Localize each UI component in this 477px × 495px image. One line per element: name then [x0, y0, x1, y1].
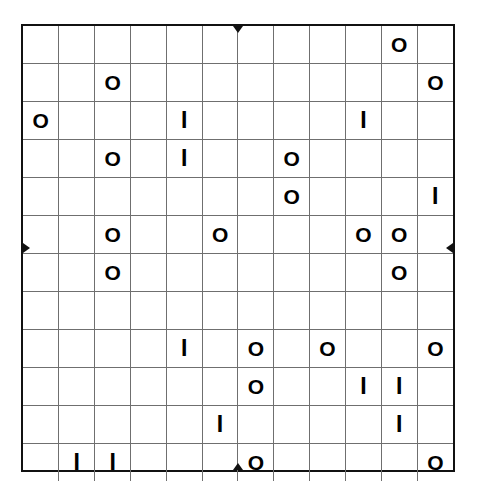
grid-cell-r1-c4[interactable]	[166, 64, 202, 102]
grid-cell-r10-c3[interactable]	[130, 406, 166, 444]
grid-cell-r3-c9[interactable]	[345, 140, 381, 178]
grid-cell-r0-c4[interactable]	[166, 26, 202, 64]
grid-cell-r11-c0[interactable]	[23, 444, 59, 482]
grid-cell-r1-c10[interactable]	[381, 64, 417, 102]
grid-cell-r5-c7[interactable]	[274, 216, 310, 254]
grid-cell-r3-c11[interactable]	[417, 140, 453, 178]
grid-cell-r2-c9[interactable]: I	[345, 102, 381, 140]
grid-cell-r10-c7[interactable]	[274, 406, 310, 444]
grid-cell-r10-c4[interactable]	[166, 406, 202, 444]
grid-cell-r6-c3[interactable]	[130, 254, 166, 292]
grid-cell-r2-c2[interactable]	[95, 102, 131, 140]
grid-cell-r8-c4[interactable]: I	[166, 330, 202, 368]
grid-cell-r5-c8[interactable]	[310, 216, 346, 254]
grid-cell-r11-c2[interactable]: I	[95, 444, 131, 482]
grid-cell-r1-c9[interactable]	[345, 64, 381, 102]
grid-cell-r7-c0[interactable]	[23, 292, 59, 330]
grid-cell-r11-c1[interactable]: I	[59, 444, 95, 482]
grid-cell-r9-c5[interactable]	[202, 368, 238, 406]
grid-cell-r7-c1[interactable]	[59, 292, 95, 330]
grid-cell-r4-c11[interactable]: I	[417, 178, 453, 216]
grid-cell-r8-c3[interactable]	[130, 330, 166, 368]
grid-cell-r5-c2[interactable]: O	[95, 216, 131, 254]
grid-cell-r5-c10[interactable]: O	[381, 216, 417, 254]
grid-cell-r1-c7[interactable]	[274, 64, 310, 102]
grid-cell-r11-c7[interactable]	[274, 444, 310, 482]
grid-cell-r8-c1[interactable]	[59, 330, 95, 368]
grid-cell-r6-c7[interactable]	[274, 254, 310, 292]
grid-cell-r8-c6[interactable]: O	[238, 330, 274, 368]
grid-cell-r0-c10[interactable]: O	[381, 26, 417, 64]
grid-cell-r10-c1[interactable]	[59, 406, 95, 444]
grid-cell-r6-c10[interactable]: O	[381, 254, 417, 292]
grid-cell-r0-c11[interactable]	[417, 26, 453, 64]
grid-cell-r6-c4[interactable]	[166, 254, 202, 292]
grid-cell-r4-c5[interactable]	[202, 178, 238, 216]
grid-cell-r5-c6[interactable]	[238, 216, 274, 254]
grid-cell-r9-c0[interactable]	[23, 368, 59, 406]
grid-cell-r5-c4[interactable]	[166, 216, 202, 254]
grid-cell-r0-c0[interactable]	[23, 26, 59, 64]
grid-cell-r4-c9[interactable]	[345, 178, 381, 216]
grid-cell-r3-c6[interactable]	[238, 140, 274, 178]
grid-cell-r5-c9[interactable]: O	[345, 216, 381, 254]
grid-cell-r10-c10[interactable]: I	[381, 406, 417, 444]
grid-cell-r7-c7[interactable]	[274, 292, 310, 330]
grid-cell-r4-c10[interactable]	[381, 178, 417, 216]
grid-cell-r6-c9[interactable]	[345, 254, 381, 292]
grid-cell-r0-c8[interactable]	[310, 26, 346, 64]
grid-cell-r3-c1[interactable]	[59, 140, 95, 178]
grid-cell-r2-c6[interactable]	[238, 102, 274, 140]
grid-cell-r0-c1[interactable]	[59, 26, 95, 64]
grid-cell-r5-c5[interactable]: O	[202, 216, 238, 254]
grid-cell-r2-c1[interactable]	[59, 102, 95, 140]
grid-cell-r1-c8[interactable]	[310, 64, 346, 102]
grid-cell-r0-c9[interactable]	[345, 26, 381, 64]
grid-cell-r9-c10[interactable]: I	[381, 368, 417, 406]
grid-cell-r11-c9[interactable]	[345, 444, 381, 482]
grid-cell-r10-c11[interactable]	[417, 406, 453, 444]
grid-cell-r2-c0[interactable]: O	[23, 102, 59, 140]
grid-cell-r7-c6[interactable]	[238, 292, 274, 330]
grid-cell-r1-c2[interactable]: O	[95, 64, 131, 102]
grid-cell-r11-c8[interactable]	[310, 444, 346, 482]
grid-cell-r11-c11[interactable]: O	[417, 444, 453, 482]
grid-cell-r11-c3[interactable]	[130, 444, 166, 482]
grid-cell-r11-c6[interactable]: O	[238, 444, 274, 482]
grid-cell-r8-c0[interactable]	[23, 330, 59, 368]
grid-cell-r3-c2[interactable]: O	[95, 140, 131, 178]
grid-cell-r8-c2[interactable]	[95, 330, 131, 368]
grid-cell-r1-c1[interactable]	[59, 64, 95, 102]
grid-cell-r8-c11[interactable]: O	[417, 330, 453, 368]
grid-cell-r7-c9[interactable]	[345, 292, 381, 330]
grid-cell-r10-c5[interactable]: I	[202, 406, 238, 444]
grid-cell-r8-c8[interactable]: O	[310, 330, 346, 368]
grid-cell-r9-c6[interactable]: O	[238, 368, 274, 406]
grid-cell-r4-c4[interactable]	[166, 178, 202, 216]
grid-cell-r6-c11[interactable]	[417, 254, 453, 292]
grid-cell-r6-c5[interactable]	[202, 254, 238, 292]
grid-cell-r4-c1[interactable]	[59, 178, 95, 216]
grid-cell-r2-c8[interactable]	[310, 102, 346, 140]
grid-cell-r0-c2[interactable]	[95, 26, 131, 64]
grid-cell-r8-c10[interactable]	[381, 330, 417, 368]
grid-cell-r7-c8[interactable]	[310, 292, 346, 330]
grid-cell-r4-c0[interactable]	[23, 178, 59, 216]
grid-cell-r6-c8[interactable]	[310, 254, 346, 292]
grid-cell-r5-c1[interactable]	[59, 216, 95, 254]
grid-cell-r4-c7[interactable]: O	[274, 178, 310, 216]
grid-cell-r1-c6[interactable]	[238, 64, 274, 102]
grid-cell-r10-c8[interactable]	[310, 406, 346, 444]
grid-cell-r9-c9[interactable]: I	[345, 368, 381, 406]
grid-cell-r7-c3[interactable]	[130, 292, 166, 330]
grid-cell-r10-c0[interactable]	[23, 406, 59, 444]
grid-cell-r2-c5[interactable]	[202, 102, 238, 140]
grid-cell-r9-c11[interactable]	[417, 368, 453, 406]
grid-cell-r4-c3[interactable]	[130, 178, 166, 216]
grid-cell-r1-c11[interactable]: O	[417, 64, 453, 102]
grid-cell-r4-c8[interactable]	[310, 178, 346, 216]
grid-cell-r2-c10[interactable]	[381, 102, 417, 140]
grid-cell-r10-c6[interactable]	[238, 406, 274, 444]
grid-cell-r4-c2[interactable]	[95, 178, 131, 216]
grid-cell-r10-c2[interactable]	[95, 406, 131, 444]
